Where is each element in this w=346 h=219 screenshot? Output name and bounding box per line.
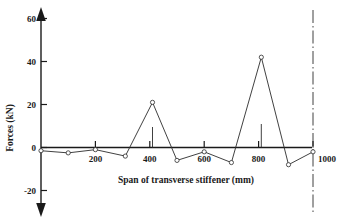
x-axis: 200 400 600 800 1000 Span of transverse … [41, 141, 337, 186]
x-tick-label-400: 400 [143, 154, 157, 164]
y-tick-label-40: 40 [27, 57, 37, 67]
data-point-marker [150, 100, 154, 104]
data-point-marker [123, 154, 127, 158]
x-tick-label-200: 200 [89, 154, 103, 164]
y-axis-arrow-down-icon [36, 203, 46, 217]
data-point-marker [229, 160, 233, 164]
peak-stems [153, 124, 262, 148]
data-point-marker [286, 163, 290, 167]
data-point-marker [175, 158, 179, 162]
series-polyline [41, 57, 313, 165]
y-tick-label-60: 60 [27, 14, 37, 24]
data-series [39, 55, 315, 167]
forces-vs-span-line-chart: 60 40 20 0 -20 Forces (kN) 200 400 600 8… [0, 0, 346, 219]
data-point-marker [39, 149, 43, 153]
data-point-marker [66, 151, 70, 155]
y-tick-label-20: 20 [27, 100, 37, 110]
y-tick-label-minus20: -20 [24, 186, 36, 196]
y-axis: 60 40 20 0 -20 Forces (kN) [5, 7, 47, 217]
data-point-marker [93, 148, 97, 152]
data-point-marker [259, 55, 263, 59]
data-point-marker [311, 150, 315, 154]
y-axis-title: Forces (kN) [5, 104, 16, 152]
x-tick-label-800: 800 [252, 154, 266, 164]
x-tick-label-600: 600 [197, 154, 211, 164]
data-point-marker [202, 150, 206, 154]
series-markers [39, 55, 315, 167]
x-axis-title: Span of transverse stiffener (mm) [118, 175, 254, 186]
y-tick-label-0: 0 [32, 143, 37, 153]
x-tick-label-1000: 1000 [318, 154, 337, 164]
chart-figure: 60 40 20 0 -20 Forces (kN) 200 400 600 8… [0, 0, 346, 219]
